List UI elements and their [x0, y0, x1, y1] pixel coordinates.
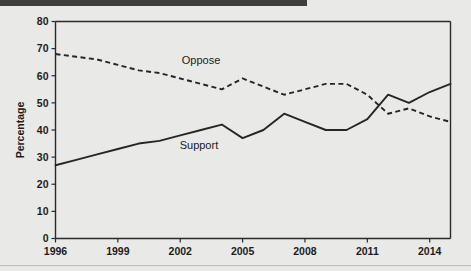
line-chart: 01020304050607080 1996199920022005200820… — [0, 0, 471, 271]
page-bottom-rule — [0, 265, 471, 266]
y-tick-label: 30 — [37, 151, 49, 163]
y-tick-label: 80 — [37, 15, 49, 27]
x-tick-label: 2005 — [231, 245, 255, 257]
y-tick-label: 0 — [43, 232, 49, 244]
y-axis-title: Percentage — [14, 102, 26, 159]
x-axis-ticks: 1996199920022005200820112014 — [44, 239, 442, 257]
x-tick-label: 2002 — [169, 245, 193, 257]
chart-annotations: OpposeSupport — [180, 54, 221, 151]
series-line-support — [56, 84, 451, 165]
y-tick-label: 70 — [37, 42, 49, 54]
y-axis-ticks: 01020304050607080 — [37, 15, 56, 244]
y-tick-label: 40 — [37, 124, 49, 136]
x-tick-label: 1999 — [106, 245, 130, 257]
y-tick-label: 50 — [37, 97, 49, 109]
series-annotation-support: Support — [180, 139, 219, 151]
x-tick-label: 2014 — [418, 245, 442, 257]
y-tick-label: 20 — [37, 178, 49, 190]
chart-axes — [56, 22, 451, 239]
x-tick-label: 1996 — [44, 245, 68, 257]
y-tick-label: 60 — [37, 70, 49, 82]
x-tick-label: 2011 — [356, 245, 379, 257]
y-tick-label: 10 — [37, 205, 49, 217]
series-annotation-oppose: Oppose — [182, 54, 221, 66]
x-tick-label: 2008 — [293, 245, 317, 257]
chart-canvas: 01020304050607080 1996199920022005200820… — [0, 0, 471, 271]
chart-page: 01020304050607080 1996199920022005200820… — [0, 0, 471, 271]
series-line-oppose — [56, 54, 451, 122]
chart-series-group — [56, 54, 451, 165]
